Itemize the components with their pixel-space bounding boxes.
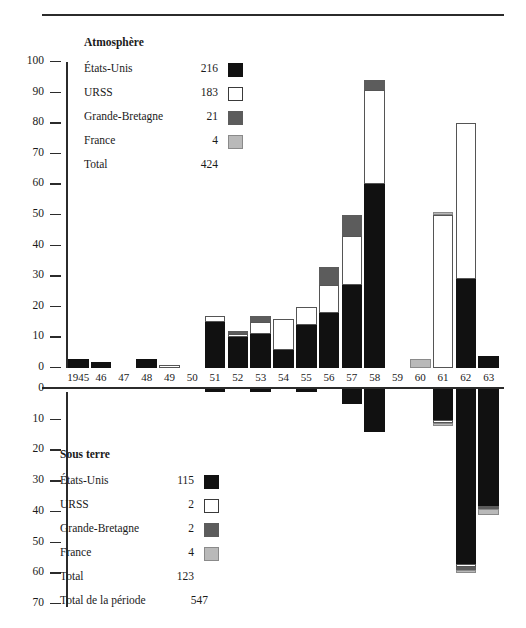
bar-segment-us (364, 184, 385, 368)
tick-mark (50, 419, 61, 420)
bar-stack (91, 362, 112, 368)
legend-swatch-us (204, 475, 219, 489)
bar-segment-gb (250, 316, 271, 322)
lower-tick-label: 50 (10, 535, 44, 547)
legend-total-label: Total (84, 158, 107, 170)
legend-row: URSS183 (84, 86, 254, 102)
bar-segment-gb (319, 267, 340, 285)
upper-tick-label: 10 (10, 329, 44, 341)
bar-stack (296, 307, 317, 368)
legend-count: 21 (188, 110, 218, 122)
bar-stack (273, 319, 294, 368)
legend-country-label: URSS (60, 498, 89, 510)
bar-stack (250, 316, 271, 368)
tick-mark (50, 122, 61, 123)
bar-stack (364, 389, 385, 432)
legend-total-row: Total424 (84, 158, 274, 174)
bar-segment-su (342, 236, 363, 285)
lower-tick-label: 10 (10, 412, 44, 424)
bar-segment-su (250, 322, 271, 334)
bar-stack (433, 389, 454, 426)
lower-tick-label: 40 (10, 504, 44, 516)
legend-row: États-Unis216 (84, 62, 254, 78)
legend-count: 4 (164, 546, 194, 558)
chart-page: 1009080706050403020100 010203040506070 1… (0, 0, 526, 628)
bar-stack (319, 267, 340, 368)
upper-tick-label: 60 (10, 176, 44, 188)
legend-swatch-su (228, 87, 243, 101)
legend-row: Grande-Bretagne21 (84, 110, 254, 126)
legend-total-label: Total de la période (60, 594, 146, 606)
underground-legend-title: Sous terre (60, 448, 110, 460)
legend-total-label: Total (60, 570, 83, 582)
bar-segment-su (296, 307, 317, 325)
bar-segment-su (273, 319, 294, 350)
legend-row: États-Unis115 (60, 474, 230, 490)
bar-segment-us (91, 362, 112, 368)
legend-count: 216 (188, 62, 218, 74)
bar-segment-us (364, 389, 385, 432)
lower-tick-label: 60 (10, 565, 44, 577)
bar-segment-gb (228, 331, 249, 334)
legend-total-row: Total123 (60, 570, 250, 586)
tick-mark (50, 61, 61, 62)
cropped-header-text (120, 0, 510, 5)
tick-mark (50, 245, 61, 246)
bar-segment-us (296, 325, 317, 368)
bar-segment-us (456, 279, 477, 368)
bar-segment-su (364, 90, 385, 185)
tick-mark (50, 306, 61, 307)
tick-mark (50, 153, 61, 154)
lower-tick-label: 30 (10, 473, 44, 485)
bar-stack (410, 359, 431, 368)
legend-country-label: URSS (84, 86, 113, 98)
bar-stack (250, 389, 271, 392)
x-tick-label: 63 (471, 371, 507, 383)
bar-segment-us (342, 285, 363, 368)
bar-segment-su (205, 316, 226, 322)
tick-mark (50, 275, 61, 276)
upper-tick-label: 30 (10, 268, 44, 280)
upper-tick-label: 80 (10, 115, 44, 127)
legend-count: 4 (188, 134, 218, 146)
legend-row: France4 (84, 134, 254, 150)
legend-count: 2 (164, 498, 194, 510)
upper-tick-label: 0 (10, 360, 44, 372)
legend-swatch-us (228, 63, 243, 77)
legend-country-label: Grande-Bretagne (60, 522, 139, 534)
legend-country-label: Grande-Bretagne (84, 110, 163, 122)
bar-stack (456, 389, 477, 573)
upper-y-axis (66, 62, 68, 368)
bar-segment-gb (364, 80, 385, 89)
legend-total-value: 424 (188, 158, 218, 170)
bar-stack (478, 389, 499, 515)
bar-stack (478, 356, 499, 368)
bar-segment-fr (433, 423, 454, 426)
tick-mark (50, 214, 61, 215)
bar-stack (159, 365, 180, 368)
bar-segment-su (319, 285, 340, 313)
atmosphere-legend-title: Atmosphère (84, 36, 144, 48)
legend-swatch-fr (204, 547, 219, 561)
legend-swatch-su (204, 499, 219, 513)
top-rule (42, 14, 504, 16)
legend-total-value: 547 (178, 594, 208, 606)
atmosphere-legend: Atmosphère États-Unis216URSS183Grande-Br… (84, 36, 144, 148)
bar-segment-us (250, 334, 271, 368)
bar-stack (342, 389, 363, 404)
bar-segment-us (342, 389, 363, 404)
legend-count: 115 (164, 474, 194, 486)
bar-stack (456, 123, 477, 368)
bar-stack (433, 212, 454, 368)
legend-swatch-gb (228, 111, 243, 125)
legend-country-label: France (60, 546, 91, 558)
lower-tick-label: 20 (10, 442, 44, 454)
bar-segment-us (136, 359, 157, 368)
legend-swatch-fr (228, 135, 243, 149)
legend-count: 183 (188, 86, 218, 98)
tick-mark (50, 388, 61, 389)
bar-segment-us (433, 389, 454, 420)
bar-segment-gb (342, 215, 363, 236)
bar-segment-fr (433, 212, 454, 215)
tick-mark (50, 367, 61, 368)
